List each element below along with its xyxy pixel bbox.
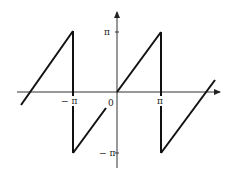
- x-label-neg-pi: − π: [61, 96, 77, 106]
- y-label-neg-pi: − π: [99, 148, 115, 158]
- segment-center-rise: [117, 32, 161, 92]
- segment-left-lower-rise: [73, 108, 106, 153]
- x-label-pi: π: [157, 96, 163, 106]
- segment-right-rise: [161, 80, 215, 153]
- y-label-pi: π: [104, 27, 110, 37]
- segment-left-rise: [21, 31, 73, 105]
- sawtooth-chart: π − π − π 0 π: [0, 0, 228, 181]
- x-label-zero: 0: [108, 98, 114, 108]
